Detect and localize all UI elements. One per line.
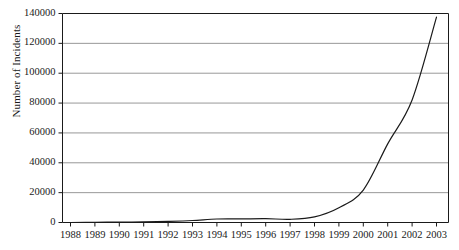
x-axis-ticks (71, 223, 437, 227)
line-chart: Number of Incidents 02000040000600008000… (0, 0, 459, 250)
data-series-line (71, 17, 437, 222)
gridlines (63, 14, 449, 223)
plot-frame (63, 14, 449, 223)
plot-area (0, 0, 459, 250)
y-axis-ticks (59, 14, 63, 223)
